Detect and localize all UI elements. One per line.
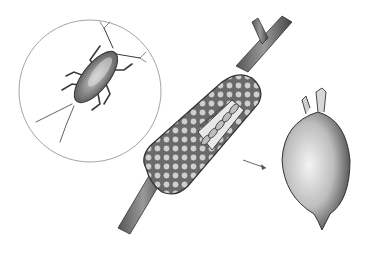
arrow-icon [243,160,266,170]
insect-inset [19,20,161,162]
illustration [0,0,370,256]
single-egg [282,88,350,230]
